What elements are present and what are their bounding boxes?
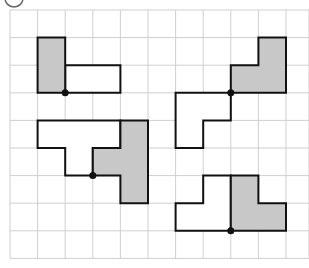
figure-top-left — [38, 38, 121, 97]
shaded-region — [231, 38, 286, 93]
pivot-dot — [62, 89, 69, 96]
pivot-dot — [227, 89, 234, 96]
figure-bottom-right — [176, 176, 286, 235]
figures — [38, 38, 286, 235]
white-region — [176, 176, 231, 231]
pivot-dot — [227, 227, 234, 234]
shaded-region — [231, 176, 286, 231]
white-region — [65, 65, 120, 93]
pivot-dot — [89, 172, 96, 179]
shaded-region — [38, 38, 66, 93]
white-region — [176, 93, 231, 148]
grid-diagram — [0, 0, 309, 268]
circled-label-mark — [5, 0, 23, 7]
